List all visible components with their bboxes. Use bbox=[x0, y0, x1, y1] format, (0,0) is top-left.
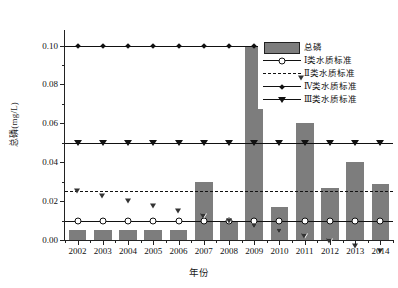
marker-Ⅳ类水质标准 bbox=[226, 43, 232, 49]
marker-Ⅰ类水质标准 bbox=[125, 217, 132, 224]
marker-Ⅱ类水质标准 bbox=[75, 189, 81, 194]
x-minor-tick-mark bbox=[343, 240, 344, 243]
legend-label: Ⅲ类水质标准 bbox=[304, 95, 357, 104]
marker-Ⅲ类水质标准 bbox=[124, 140, 132, 146]
marker-Ⅲ类水质标准 bbox=[200, 140, 208, 146]
x-tick-mark bbox=[78, 240, 79, 245]
y-minor-tick-mark bbox=[62, 104, 65, 105]
y-tick-label: 0.06 bbox=[24, 118, 58, 128]
x-minor-tick-mark bbox=[191, 240, 192, 243]
legend-key bbox=[260, 67, 304, 80]
x-minor-tick-mark bbox=[368, 240, 369, 243]
reference-line-Ⅱ类水质标准 bbox=[65, 191, 393, 192]
x-minor-tick-mark bbox=[115, 240, 116, 243]
marker-Ⅳ类水质标准 bbox=[125, 43, 131, 49]
legend-label: Ⅱ类水质标准 bbox=[304, 69, 355, 78]
x-tick-mark bbox=[103, 240, 104, 245]
legend-item-Ⅳ类水质标准: Ⅳ类水质标准 bbox=[260, 80, 392, 93]
legend-label: 总磷 bbox=[304, 43, 322, 52]
marker-Ⅳ类水质标准 bbox=[201, 43, 207, 49]
marker-Ⅰ类水质标准 bbox=[175, 217, 182, 224]
x-tick-mark bbox=[305, 240, 306, 245]
legend-key bbox=[260, 54, 304, 67]
marker-Ⅲ类水质标准 bbox=[301, 140, 309, 146]
y-axis-tick-labels: 0.000.020.040.060.080.10 bbox=[22, 0, 58, 288]
y-tick-mark bbox=[60, 123, 65, 124]
y-minor-tick-mark bbox=[62, 143, 65, 144]
marker-Ⅰ类水质标准 bbox=[74, 217, 81, 224]
x-axis-label: 年份 bbox=[0, 265, 398, 279]
marker-Ⅱ类水质标准 bbox=[125, 199, 131, 204]
y-tick-mark bbox=[60, 46, 65, 47]
y-axis-label: 总磷(mg/L) bbox=[7, 70, 20, 180]
x-tick-mark bbox=[128, 240, 129, 245]
marker-Ⅰ类水质标准 bbox=[150, 217, 157, 224]
x-tick-mark bbox=[153, 240, 154, 245]
y-tick-mark bbox=[60, 162, 65, 163]
marker-Ⅱ类水质标准 bbox=[150, 204, 156, 209]
chart-legend: 总磷Ⅰ类水质标准Ⅱ类水质标准Ⅳ类水质标准Ⅲ类水质标准 bbox=[258, 38, 394, 109]
x-minor-tick-mark bbox=[166, 240, 167, 243]
marker-Ⅱ类水质标准 bbox=[226, 219, 232, 224]
y-tick-label: 0.10 bbox=[24, 41, 58, 51]
legend-marker-icon bbox=[279, 84, 285, 90]
marker-Ⅰ类水质标准 bbox=[377, 217, 384, 224]
legend-marker-icon bbox=[278, 97, 286, 103]
bar-2006 bbox=[170, 230, 188, 240]
marker-Ⅳ类水质标准 bbox=[150, 43, 156, 49]
marker-Ⅰ类水质标准 bbox=[301, 217, 308, 224]
marker-Ⅰ类水质标准 bbox=[99, 217, 106, 224]
legend-line-icon bbox=[263, 73, 301, 74]
legend-marker-icon bbox=[279, 57, 286, 64]
x-tick-mark bbox=[330, 240, 331, 245]
marker-Ⅲ类水质标准 bbox=[376, 140, 384, 146]
marker-Ⅲ类水质标准 bbox=[351, 140, 359, 146]
legend-key bbox=[260, 93, 304, 106]
bar-2003 bbox=[94, 230, 112, 240]
marker-Ⅱ类水质标准 bbox=[100, 194, 106, 199]
marker-Ⅲ类水质标准 bbox=[225, 140, 233, 146]
y-tick-mark bbox=[60, 201, 65, 202]
marker-Ⅱ类水质标准 bbox=[176, 209, 182, 214]
y-minor-tick-mark bbox=[62, 182, 65, 183]
marker-Ⅲ类水质标准 bbox=[74, 140, 82, 146]
legend-key bbox=[260, 41, 304, 54]
legend-item-Ⅰ类水质标准: Ⅰ类水质标准 bbox=[260, 54, 392, 67]
x-tick-mark bbox=[229, 240, 230, 245]
x-tick-mark bbox=[279, 240, 280, 245]
marker-Ⅱ类水质标准 bbox=[201, 214, 207, 219]
marker-Ⅳ类水质标准 bbox=[100, 43, 106, 49]
marker-Ⅳ类水质标准 bbox=[176, 43, 182, 49]
marker-Ⅱ类水质标准 bbox=[276, 229, 282, 234]
x-tick-mark bbox=[355, 240, 356, 245]
x-tick-label: 2014 bbox=[363, 246, 397, 256]
legend-item-Ⅲ类水质标准: Ⅲ类水质标准 bbox=[260, 93, 392, 106]
x-minor-tick-mark bbox=[267, 240, 268, 243]
marker-Ⅲ类水质标准 bbox=[250, 140, 258, 146]
y-minor-tick-mark bbox=[62, 65, 65, 66]
y-tick-label: 0.08 bbox=[24, 79, 58, 89]
x-minor-tick-mark bbox=[242, 240, 243, 243]
x-tick-mark bbox=[254, 240, 255, 245]
x-minor-tick-mark bbox=[65, 240, 66, 243]
legend-label: Ⅰ类水质标准 bbox=[304, 56, 352, 65]
marker-Ⅰ类水质标准 bbox=[326, 217, 333, 224]
bar-2004 bbox=[119, 230, 137, 240]
marker-Ⅲ类水质标准 bbox=[149, 140, 157, 146]
x-tick-mark bbox=[179, 240, 180, 245]
x-minor-tick-mark bbox=[292, 240, 293, 243]
marker-Ⅲ类水质标准 bbox=[99, 140, 107, 146]
x-minor-tick-mark bbox=[141, 240, 142, 243]
bar-2013 bbox=[346, 162, 364, 240]
legend-key bbox=[260, 80, 304, 93]
bar-2002 bbox=[69, 230, 87, 240]
bar-2012 bbox=[321, 188, 339, 241]
legend-item-Ⅱ类水质标准: Ⅱ类水质标准 bbox=[260, 67, 392, 80]
marker-Ⅲ类水质标准 bbox=[326, 140, 334, 146]
chart-container: 总磷(mg/L) 年份 0.000.020.040.060.080.10 200… bbox=[0, 0, 398, 288]
y-tick-mark bbox=[60, 84, 65, 85]
marker-Ⅰ类水质标准 bbox=[352, 217, 359, 224]
bar-2005 bbox=[144, 230, 162, 240]
x-tick-mark bbox=[204, 240, 205, 245]
legend-label: Ⅳ类水质标准 bbox=[304, 82, 358, 91]
